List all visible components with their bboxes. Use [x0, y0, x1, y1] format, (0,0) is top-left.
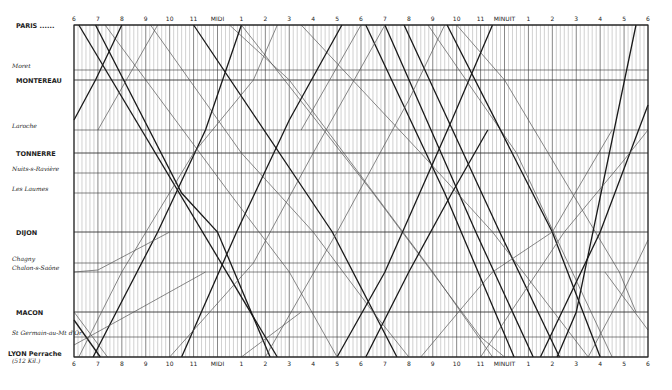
x-tick-label: 3 — [574, 360, 578, 367]
train-path-up-local-e — [241, 312, 301, 357]
x-tick-label: 10 — [166, 360, 174, 367]
x-tick-label: 2 — [263, 15, 267, 22]
x-tick-label: 9 — [144, 360, 148, 367]
x-tick-label: 11 — [477, 360, 485, 367]
train-path-down-5 — [151, 25, 409, 357]
x-tick-label: 11 — [190, 360, 198, 367]
train-path-down-13 — [457, 25, 636, 312]
x-tick-label: 3 — [287, 360, 291, 367]
x-tick-label: MIDI — [211, 360, 225, 367]
x-tick-label: 1 — [527, 360, 531, 367]
station-label: Nuits-s-Ravière — [11, 165, 60, 172]
x-tick-label: 3 — [574, 15, 578, 22]
train-path-up-8 — [366, 130, 488, 357]
x-tick-label: 6 — [646, 15, 650, 22]
train-path-up-local-c — [98, 25, 158, 130]
station-label: St Germain-au-Mt d'Or — [12, 329, 83, 336]
x-tick-label: 9 — [431, 15, 435, 22]
x-tick-label: 1 — [527, 15, 531, 22]
train-path-down-8 — [366, 25, 514, 357]
train-path-down-local-c — [605, 272, 648, 330]
x-tick-label: MINUIT — [494, 360, 516, 367]
x-tick-label: 1 — [240, 15, 244, 22]
x-tick-label: 7 — [96, 15, 100, 22]
x-tick-label: MIDI — [211, 15, 225, 22]
station-label: TONNERRE — [16, 150, 56, 158]
x-tick-label: 11 — [190, 15, 198, 22]
x-tick-label: 4 — [598, 15, 602, 22]
train-path-down-express-1 — [79, 25, 277, 357]
station-labels: PARIS ......MoretMONTEREAULarocheTONNERR… — [8, 22, 83, 365]
x-tick-label: 6 — [72, 360, 76, 367]
x-tick-label: 6 — [646, 360, 650, 367]
x-tick-label: 2 — [550, 360, 554, 367]
x-axis-top-ticks: 67891011MIDI1234567891011MINUIT123456 — [72, 15, 650, 22]
train-path-up-7 — [337, 25, 492, 357]
x-tick-label: 8 — [120, 360, 124, 367]
x-tick-label: 6 — [359, 360, 363, 367]
x-tick-label: 2 — [550, 15, 554, 22]
x-tick-label: 4 — [311, 360, 315, 367]
train-path-up-local-d — [301, 25, 361, 130]
x-tick-label: 10 — [453, 15, 461, 22]
x-tick-label: 7 — [383, 360, 387, 367]
station-label: Laroche — [11, 122, 37, 129]
x-tick-label: 10 — [166, 15, 174, 22]
x-axis-bottom-ticks: 67891011MIDI1234567891011MINUIT123456 — [72, 360, 650, 367]
x-tick-label: 10 — [453, 360, 461, 367]
x-tick-label: 8 — [120, 15, 124, 22]
x-tick-label: 5 — [335, 360, 339, 367]
station-label: Chagny — [12, 255, 36, 263]
x-tick-label: 9 — [144, 15, 148, 22]
station-label: DIJON — [16, 229, 37, 237]
x-tick-label: 11 — [477, 15, 485, 22]
station-sublabel: (512 Kil.) — [12, 357, 41, 364]
x-tick-label: 5 — [622, 15, 626, 22]
x-tick-label: 7 — [383, 15, 387, 22]
station-label: Les Laumes — [11, 185, 48, 192]
station-label: MONTEREAU — [16, 77, 62, 85]
x-tick-label: 2 — [263, 360, 267, 367]
train-schedule-chart: 67891011MIDI1234567891011MINUIT123456 67… — [0, 0, 672, 390]
x-tick-label: 1 — [240, 360, 244, 367]
x-tick-label: 6 — [359, 15, 363, 22]
x-tick-label: 3 — [287, 15, 291, 22]
x-tick-label: 6 — [72, 15, 76, 22]
station-label: Moret — [11, 62, 31, 69]
x-tick-label: 8 — [407, 15, 411, 22]
x-tick-label: 4 — [311, 15, 315, 22]
station-label: MACON — [16, 309, 43, 317]
train-path-up-2 — [93, 25, 241, 357]
x-tick-label: 7 — [96, 360, 100, 367]
x-tick-label: 5 — [335, 15, 339, 22]
x-tick-label: 8 — [407, 360, 411, 367]
x-tick-label: 4 — [598, 360, 602, 367]
x-tick-label: MINUIT — [494, 15, 516, 22]
x-tick-label: 9 — [431, 360, 435, 367]
station-label: Chalon-s-Saône — [12, 264, 60, 271]
minute-gridlines — [74, 25, 648, 357]
train-path-down-9 — [385, 25, 533, 357]
train-path-up-12 — [588, 240, 648, 357]
train-path-down-3 — [105, 25, 337, 357]
station-label: PARIS ...... — [16, 22, 54, 30]
x-tick-label: 5 — [622, 360, 626, 367]
